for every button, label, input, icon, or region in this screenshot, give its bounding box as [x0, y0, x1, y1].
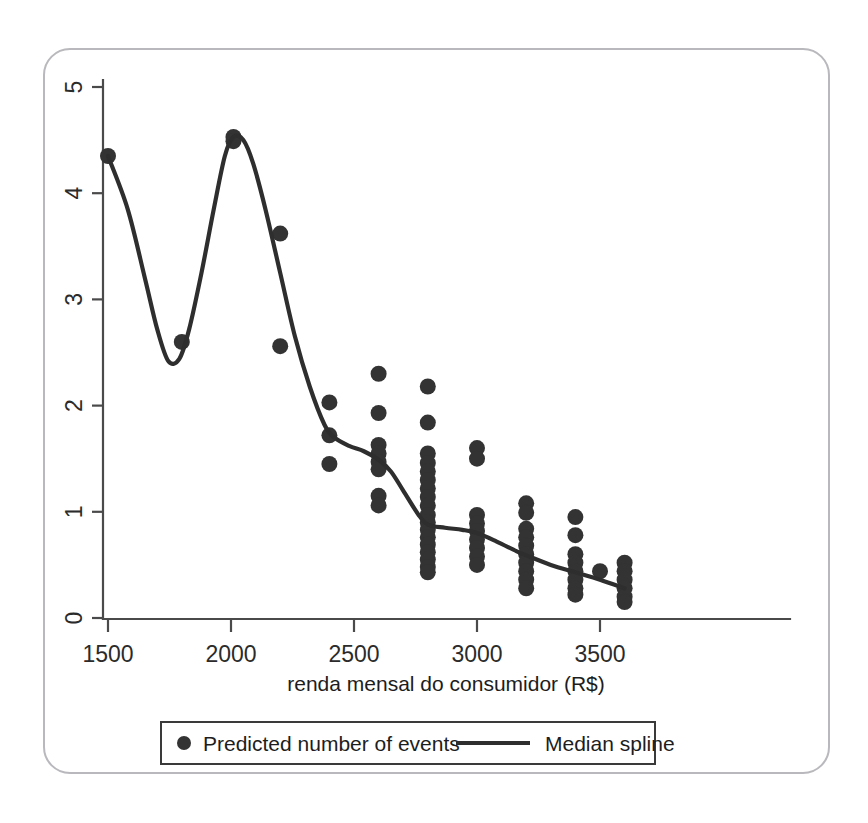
data-point [518, 505, 534, 521]
y-axis-ticks: 012345 [61, 81, 103, 625]
data-point [567, 509, 583, 525]
figure-border [44, 49, 829, 773]
y-tick-label: 2 [61, 399, 87, 412]
y-tick-label: 3 [61, 293, 87, 306]
legend-dot-icon [177, 736, 191, 750]
legend-label-points: Predicted number of events [203, 732, 460, 755]
x-tick-label: 1500 [82, 641, 133, 667]
data-point [518, 580, 534, 596]
chart-legend: Predicted number of events Median spline [161, 722, 675, 764]
data-point [371, 366, 387, 382]
data-point [469, 557, 485, 573]
data-point [272, 338, 288, 354]
data-point [469, 451, 485, 467]
figure-root: 012345 15002000250030003500 renda mensal… [0, 0, 868, 823]
x-tick-label: 2500 [328, 641, 379, 667]
x-tick-label: 3000 [451, 641, 502, 667]
data-point [617, 594, 633, 610]
data-point [420, 564, 436, 580]
x-axis-ticks: 15002000250030003500 [82, 619, 625, 667]
data-point [371, 405, 387, 421]
x-tick-label: 3500 [574, 641, 625, 667]
x-tick-label: 2000 [205, 641, 256, 667]
y-tick-label: 1 [61, 505, 87, 518]
scatter-chart: 012345 15002000250030003500 renda mensal… [0, 0, 868, 823]
legend-label-spline: Median spline [545, 732, 675, 755]
data-point [420, 415, 436, 431]
data-point [371, 497, 387, 513]
y-tick-label: 5 [61, 81, 87, 94]
data-point [567, 527, 583, 543]
x-axis-title: renda mensal do consumidor (R$) [287, 672, 604, 695]
data-point [321, 394, 337, 410]
data-point [420, 378, 436, 394]
data-points-layer [100, 129, 633, 610]
data-point [567, 587, 583, 603]
y-tick-label: 4 [61, 187, 87, 200]
data-point [321, 456, 337, 472]
y-tick-label: 0 [61, 612, 87, 625]
median-spline-path [108, 136, 625, 589]
